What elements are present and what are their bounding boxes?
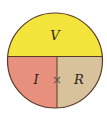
voltage-label: V [50, 28, 61, 43]
current-segment [0, 57, 57, 119]
resistance-segment [57, 57, 107, 119]
multiply-operator: × [52, 73, 62, 87]
current-label: I [32, 72, 39, 87]
ohms-law-diagram: V I × R [0, 0, 107, 118]
resistance-label: R [73, 72, 84, 87]
